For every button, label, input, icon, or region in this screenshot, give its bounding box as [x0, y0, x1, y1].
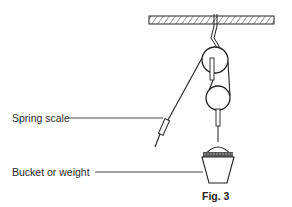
bucket-with-weight — [202, 147, 234, 183]
ceiling-support — [149, 16, 274, 24]
spring-scale-label: Spring scale — [12, 112, 70, 124]
movable-pulley — [206, 86, 230, 142]
spring-scale — [158, 119, 169, 136]
leader-lines — [70, 118, 203, 172]
figure-caption: Fig. 3 — [202, 190, 229, 202]
pulley-diagram: Spring scale Bucket or weight Fig. 3 — [0, 0, 292, 207]
fixed-pulley — [202, 47, 228, 80]
bucket-or-weight-label: Bucket or weight — [12, 166, 90, 178]
